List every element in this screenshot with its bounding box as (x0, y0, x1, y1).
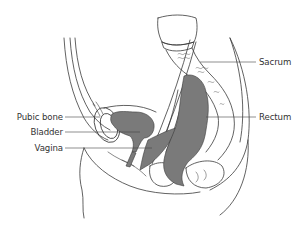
body-contour-front (80, 148, 84, 218)
back-contour (210, 38, 249, 190)
label-vagina: Vagina (35, 143, 63, 153)
vagina (126, 152, 136, 167)
label-rectum: Rectum (259, 112, 291, 122)
label-pubic-bone: Pubic bone (17, 112, 63, 122)
label-sacrum: Sacrum (259, 57, 291, 67)
sacrum-top (158, 15, 197, 45)
label-bladder: Bladder (30, 127, 63, 137)
